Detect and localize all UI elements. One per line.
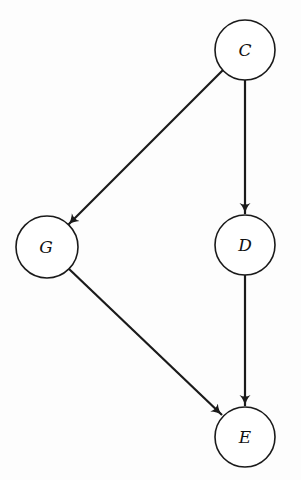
node-c-label: C <box>238 40 251 60</box>
node-e-label: E <box>238 427 252 447</box>
node-c: C <box>215 20 275 80</box>
node-d: D <box>215 215 275 275</box>
node-d-label: D <box>237 235 252 255</box>
edge-c-to-g <box>68 70 223 225</box>
graph-svg: C G D E <box>0 0 301 480</box>
edge-g-to-e <box>68 268 222 415</box>
node-g-label: G <box>39 237 53 257</box>
diagram-canvas: C G D E <box>0 0 301 480</box>
node-g: G <box>16 216 78 278</box>
node-e: E <box>215 407 275 467</box>
